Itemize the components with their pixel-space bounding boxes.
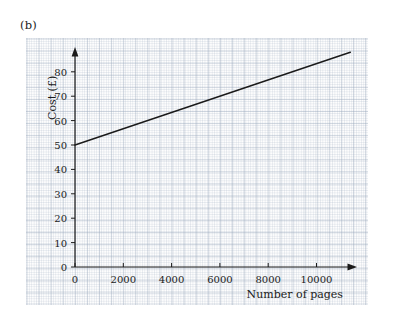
x-tick-label: 8000: [255, 274, 280, 285]
y-tick-label: 20: [33, 213, 67, 224]
y-axis-title: Cost (£): [46, 76, 59, 120]
x-axis-title: Number of pages: [247, 288, 343, 301]
figure-container: (b) 01020304050607080 020004000600080001…: [0, 0, 393, 318]
y-tick-label: 10: [33, 237, 67, 248]
y-tick-label: 40: [33, 164, 67, 175]
cost-line-series: [75, 52, 350, 145]
x-tick-label: 6000: [207, 274, 232, 285]
y-tick-label: 0: [33, 262, 67, 273]
x-tick-label: 0: [72, 274, 78, 285]
x-tick-label: 10000: [301, 274, 333, 285]
y-axis-arrow-icon: [72, 47, 79, 57]
x-axis-arrow-icon: [348, 264, 358, 271]
y-tick-label: 30: [33, 188, 67, 199]
y-tick-label: 50: [33, 140, 67, 151]
x-tick-label: 4000: [159, 274, 184, 285]
x-tick-label: 2000: [111, 274, 136, 285]
